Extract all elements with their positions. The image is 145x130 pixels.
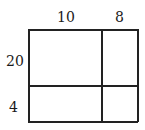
row-label-1: 20 [6, 54, 24, 68]
horizontal-divider [28, 85, 138, 87]
column-label-2: 8 [115, 10, 124, 24]
rect-top [28, 29, 138, 31]
rect-bottom [28, 121, 138, 123]
row-label-2: 4 [9, 100, 18, 114]
column-label-1: 10 [57, 10, 75, 24]
rect-left [28, 29, 30, 122]
rect-right [137, 29, 139, 122]
vertical-divider [101, 29, 103, 122]
